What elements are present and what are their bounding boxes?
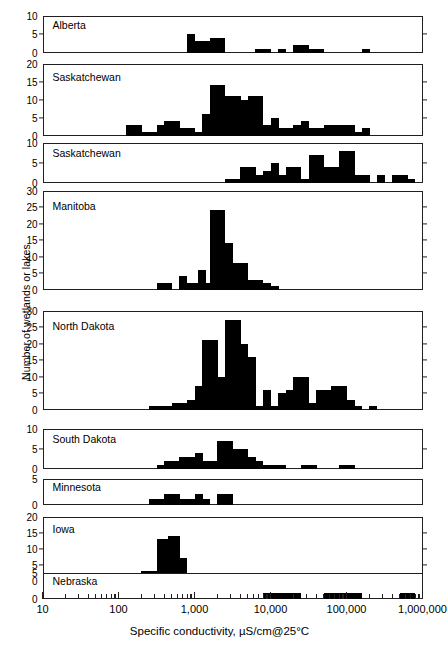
y-tick-mark-right [423, 532, 427, 533]
histogram-panel: 05Nebraska [43, 573, 423, 599]
y-tick-label: 5 [0, 268, 43, 279]
y-tick-label: 30 [0, 305, 43, 316]
y-tick-label: 5 [0, 157, 43, 168]
x-tick-label: 1,000 [181, 603, 209, 615]
x-major-tick [270, 592, 271, 599]
y-tick-label: 10 [0, 543, 43, 554]
x-major-tick [42, 592, 43, 599]
y-tick-label: 0 [0, 284, 43, 295]
histogram-bar [362, 128, 370, 135]
x-minor-tick [342, 594, 343, 599]
x-tick-label: 100 [109, 603, 127, 615]
y-tick-mark-right [423, 239, 427, 240]
x-minor-tick [171, 594, 172, 599]
x-minor-tick [392, 594, 393, 599]
y-tick-label: 5 [0, 388, 43, 399]
x-minor-tick [247, 594, 248, 599]
histogram-panel: 0510South Dakota [43, 429, 423, 469]
histogram-panel: 051015202530North Dakota [43, 311, 423, 410]
x-minor-tick [114, 594, 115, 599]
histogram-panel: 05Minnesota [43, 479, 423, 505]
histogram-panel: 05101520Saskatchewan [43, 64, 423, 136]
x-minor-tick [410, 594, 411, 599]
x-minor-tick [111, 594, 112, 599]
x-minor-tick [88, 594, 89, 599]
panel-plot-area [43, 64, 423, 136]
panel-plot-area [43, 573, 423, 599]
x-tick-label: 10 [36, 603, 48, 615]
histogram-panel: 051015202530Manitoba [43, 191, 423, 290]
y-tick-mark-right [423, 223, 427, 224]
x-minor-tick [240, 594, 241, 599]
histogram-bar [225, 494, 233, 504]
x-minor-tick [187, 594, 188, 599]
x-tick-label: 100,000 [327, 603, 367, 615]
x-minor-tick [329, 594, 330, 599]
y-tick-label: 25 [0, 322, 43, 333]
y-tick-label: 10 [0, 371, 43, 382]
x-minor-tick [190, 594, 191, 599]
panel-plot-area [43, 517, 423, 581]
y-tick-label: 5 [0, 112, 43, 123]
x-minor-tick [399, 594, 400, 599]
histogram-bar [316, 49, 324, 53]
x-minor-tick [177, 594, 178, 599]
histogram-bar [164, 283, 172, 290]
x-minor-tick [164, 594, 165, 599]
y-tick-mark-right [423, 564, 427, 565]
y-tick-label: 0 [0, 499, 43, 510]
y-tick-label: 0 [0, 404, 43, 415]
histogram-bar [309, 465, 317, 469]
x-major-tick [118, 592, 119, 599]
histogram-bar [407, 179, 415, 183]
panel-plot-area [43, 143, 423, 183]
y-tick-label: 30 [0, 185, 43, 196]
y-tick-mark-right [423, 376, 427, 377]
y-tick-label: 5 [0, 473, 43, 484]
histogram-bar [202, 499, 210, 504]
x-minor-tick [182, 594, 183, 599]
y-tick-label: 20 [0, 218, 43, 229]
panel-plot-area [43, 429, 423, 469]
x-minor-tick [293, 594, 294, 599]
y-tick-label: 5 [0, 29, 43, 40]
y-tick-label: 10 [0, 10, 43, 21]
histogram-bar [248, 357, 256, 410]
x-major-tick [346, 592, 347, 599]
y-tick-mark-right [423, 117, 427, 118]
x-minor-tick [323, 594, 324, 599]
y-tick-label: 10 [0, 94, 43, 105]
x-minor-tick [382, 594, 383, 599]
y-tick-mark-right [423, 33, 427, 34]
histogram-bar [362, 175, 370, 183]
x-minor-tick [415, 594, 416, 599]
x-minor-tick [217, 594, 218, 599]
histogram-bar [362, 49, 370, 53]
x-minor-tick [339, 594, 340, 599]
x-minor-tick [78, 594, 79, 599]
y-tick-label: 10 [0, 423, 43, 434]
y-tick-label: 5 [0, 443, 43, 454]
histogram-bar [278, 49, 286, 53]
x-minor-tick [230, 594, 231, 599]
x-tick-label: 1,000,000 [398, 603, 447, 615]
x-minor-tick [405, 594, 406, 599]
x-minor-tick [306, 594, 307, 599]
x-minor-tick [369, 594, 370, 599]
histogram-bar [347, 465, 355, 469]
x-minor-tick [258, 594, 259, 599]
histogram-panel: 05101520Iowa [43, 517, 423, 581]
x-axis-title: Specific conductivity, µS/cm@25°C [0, 625, 439, 637]
histogram-bar [377, 175, 385, 183]
y-tick-label: 20 [0, 58, 43, 69]
x-minor-tick [263, 594, 264, 599]
x-tick-label: 10,000 [254, 603, 288, 615]
y-tick-mark-right [423, 326, 427, 327]
histogram-bar [354, 406, 362, 409]
y-tick-mark-right [423, 99, 427, 100]
y-tick-mark-right [423, 392, 427, 393]
y-tick-label: 0 [0, 47, 43, 58]
y-tick-mark-right [423, 343, 427, 344]
x-minor-tick [65, 594, 66, 599]
